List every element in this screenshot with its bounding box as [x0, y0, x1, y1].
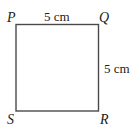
vertex-label-q: Q	[99, 11, 109, 25]
top-side-measurement: 5 cm	[44, 10, 70, 23]
right-side-measurement: 5 cm	[104, 62, 130, 75]
vertex-label-p: P	[7, 11, 16, 25]
vertex-label-r: R	[100, 113, 109, 127]
square-outline	[16, 25, 99, 112]
vertex-label-s: S	[7, 113, 14, 127]
square-diagram: P Q R S 5 cm 5 cm	[0, 0, 137, 127]
